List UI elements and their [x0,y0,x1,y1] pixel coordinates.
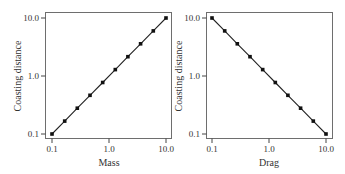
x-tick-label: 1.0 [263,144,275,154]
data-point-marker [152,29,156,33]
y-tick-label: 1.0 [189,71,201,81]
data-point-marker [126,55,130,59]
x-axis-label: Drag [259,157,279,168]
x-axis-label: Mass [98,157,119,168]
data-point-marker [324,132,328,136]
panel-mass: 10.0 1.0 0.1 0.1 1.0 10.0 Mass Coasting … [12,13,174,169]
data-point-marker [299,106,303,110]
data-point-marker [223,29,227,33]
data-point-marker [210,16,214,20]
data-point-marker [274,81,278,85]
chart-figure: 10.0 1.0 0.1 0.1 1.0 10.0 Mass Coasting … [0,0,345,174]
data-point-marker [164,16,168,20]
data-series-drag [210,16,328,136]
data-point-marker [286,94,290,98]
x-tick-label: 0.1 [206,144,217,154]
x-tick-label: 0.1 [46,144,57,154]
data-point-marker [50,132,54,136]
y-tick-label: 1.0 [28,71,40,81]
data-point-marker [101,81,105,85]
data-point-marker [248,55,252,59]
data-point-marker [63,119,67,123]
data-point-marker [139,42,143,46]
data-point-marker [114,68,118,72]
series-line [52,18,166,134]
data-point-marker [76,106,80,110]
data-point-marker [236,42,240,46]
series-line [212,18,326,134]
panel-drag: 10.0 1.0 0.1 0.1 1.0 10.0 Drag Coasting … [173,13,334,169]
y-tick-label: 0.1 [189,129,200,139]
x-tick-label: 1.0 [103,144,115,154]
data-series-mass [50,16,168,136]
y-tick-label: 0.1 [28,129,39,139]
data-point-marker [88,94,92,98]
x-tick-label: 10.0 [158,144,174,154]
data-point-marker [312,119,316,123]
y-axis-label: Coasting distance [173,40,184,111]
data-point-marker [261,68,265,72]
y-tick-label: 10.0 [23,13,39,23]
y-tick-label: 10.0 [184,13,200,23]
y-axis-label: Coasting distance [12,40,23,111]
x-tick-label: 10.0 [318,144,334,154]
